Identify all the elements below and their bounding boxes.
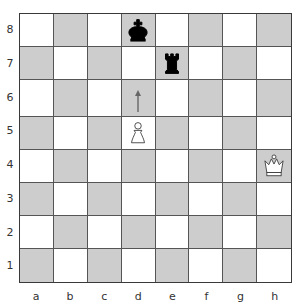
square-c3[interactable] xyxy=(88,183,122,216)
square-h2[interactable] xyxy=(257,216,291,249)
square-h5[interactable] xyxy=(257,117,291,150)
square-b2[interactable] xyxy=(54,216,88,249)
square-f6[interactable] xyxy=(189,80,223,117)
square-a2[interactable] xyxy=(20,216,54,249)
file-label: b xyxy=(53,290,87,303)
square-h7[interactable] xyxy=(257,47,291,80)
chess-board xyxy=(19,13,292,283)
square-e2[interactable] xyxy=(156,216,190,249)
square-h6[interactable] xyxy=(257,80,291,117)
black-king-icon[interactable] xyxy=(125,17,151,43)
square-c2[interactable] xyxy=(88,216,122,249)
square-a5[interactable] xyxy=(20,117,54,150)
square-g4[interactable] xyxy=(223,150,257,183)
square-d2[interactable] xyxy=(122,216,156,249)
square-d6[interactable] xyxy=(122,80,156,117)
square-a3[interactable] xyxy=(20,183,54,216)
square-b6[interactable] xyxy=(54,80,88,117)
square-d5[interactable] xyxy=(122,117,156,150)
square-a6[interactable] xyxy=(20,80,54,117)
rank-label: 3 xyxy=(4,192,16,205)
file-label: e xyxy=(155,290,189,303)
square-g5[interactable] xyxy=(223,117,257,150)
rank-label: 8 xyxy=(4,23,16,36)
black-rook-icon[interactable] xyxy=(159,50,185,76)
file-label: h xyxy=(258,290,292,303)
file-label: g xyxy=(224,290,258,303)
white-queen-icon[interactable] xyxy=(261,153,287,179)
square-b5[interactable] xyxy=(54,117,88,150)
square-g3[interactable] xyxy=(223,183,257,216)
square-e6[interactable] xyxy=(156,80,190,117)
square-g7[interactable] xyxy=(223,47,257,80)
square-c1[interactable] xyxy=(88,249,122,282)
file-label: a xyxy=(19,290,53,303)
square-c6[interactable] xyxy=(88,80,122,117)
rank-label: 4 xyxy=(4,158,16,171)
square-g6[interactable] xyxy=(223,80,257,117)
square-f7[interactable] xyxy=(189,47,223,80)
square-f3[interactable] xyxy=(189,183,223,216)
square-b7[interactable] xyxy=(54,47,88,80)
square-d7[interactable] xyxy=(122,47,156,80)
square-f8[interactable] xyxy=(189,14,223,47)
square-a4[interactable] xyxy=(20,150,54,183)
square-d4[interactable] xyxy=(122,150,156,183)
square-e3[interactable] xyxy=(156,183,190,216)
square-e5[interactable] xyxy=(156,117,190,150)
square-c4[interactable] xyxy=(88,150,122,183)
square-a7[interactable] xyxy=(20,47,54,80)
square-g1[interactable] xyxy=(223,249,257,282)
square-a1[interactable] xyxy=(20,249,54,282)
file-label: d xyxy=(121,290,155,303)
square-b8[interactable] xyxy=(54,14,88,47)
file-label: f xyxy=(190,290,224,303)
square-d3[interactable] xyxy=(122,183,156,216)
rank-label: 6 xyxy=(4,91,16,104)
square-e4[interactable] xyxy=(156,150,190,183)
square-e8[interactable] xyxy=(156,14,190,47)
square-g2[interactable] xyxy=(223,216,257,249)
square-h3[interactable] xyxy=(257,183,291,216)
rank-label: 2 xyxy=(4,226,16,239)
rank-label: 5 xyxy=(4,124,16,137)
square-b3[interactable] xyxy=(54,183,88,216)
square-d8[interactable] xyxy=(122,14,156,47)
square-c8[interactable] xyxy=(88,14,122,47)
square-f1[interactable] xyxy=(189,249,223,282)
rank-label: 1 xyxy=(4,259,16,272)
square-d1[interactable] xyxy=(122,249,156,282)
square-c7[interactable] xyxy=(88,47,122,80)
white-pawn-icon[interactable] xyxy=(125,120,151,146)
square-h8[interactable] xyxy=(257,14,291,47)
arrow-up-icon xyxy=(134,80,142,116)
square-f5[interactable] xyxy=(189,117,223,150)
square-b1[interactable] xyxy=(54,249,88,282)
rank-label: 7 xyxy=(4,57,16,70)
file-label: c xyxy=(87,290,121,303)
square-b4[interactable] xyxy=(54,150,88,183)
square-e1[interactable] xyxy=(156,249,190,282)
square-h1[interactable] xyxy=(257,249,291,282)
square-g8[interactable] xyxy=(223,14,257,47)
square-c5[interactable] xyxy=(88,117,122,150)
square-f2[interactable] xyxy=(189,216,223,249)
square-e7[interactable] xyxy=(156,47,190,80)
square-h4[interactable] xyxy=(257,150,291,183)
square-a8[interactable] xyxy=(20,14,54,47)
square-f4[interactable] xyxy=(189,150,223,183)
